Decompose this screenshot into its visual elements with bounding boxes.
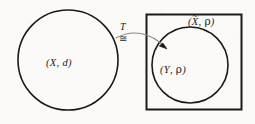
domain-close-paren: ) <box>68 57 72 68</box>
figure-canvas: (X, d) (~X, ρ) (Y, ρ) T ≅ <box>0 0 255 124</box>
completion-space-label: (~X, ρ) <box>188 16 215 28</box>
tilde-accent-icon: ~ <box>193 11 199 21</box>
isometry-symbol-label: ≅ <box>119 34 127 44</box>
map-name-label: T <box>120 22 126 32</box>
domain-set-symbol: X <box>50 57 57 68</box>
domain-space-label: (X, d) <box>46 58 72 69</box>
map-arrowhead-icon <box>159 43 166 49</box>
image-close-paren: ) <box>182 64 186 75</box>
diagram-vector-layer <box>0 0 255 124</box>
image-space-label: (Y, ρ) <box>160 64 186 76</box>
completion-close-paren: ) <box>211 16 215 27</box>
